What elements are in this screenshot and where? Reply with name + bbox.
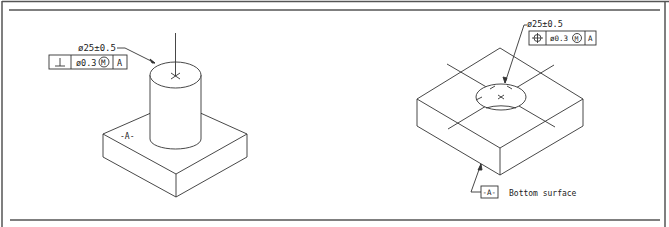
right-fcf-modifier: M — [575, 35, 579, 43]
right-datum-note: Bottom surface — [509, 189, 577, 198]
left-feature-control-frame: ø0.3 M A — [49, 55, 127, 69]
right-dimension-label: ø25±0.5 — [527, 19, 563, 29]
left-fcf-tolerance: ø0.3 — [76, 58, 96, 68]
left-dimension-label: ø25±0.5 — [78, 43, 116, 53]
right-feature-control-frame: ø0.3 M A — [529, 31, 596, 45]
left-fcf-modifier: M — [101, 58, 106, 67]
right-datum-label: -A- — [483, 188, 497, 197]
left-datum-label: -A- — [120, 132, 134, 141]
left-fcf-datum: A — [117, 58, 122, 68]
right-fcf-datum: A — [588, 34, 593, 43]
right-fcf-tolerance: ø0.3 — [550, 34, 568, 43]
drawing-canvas: ø25±0.5 ø0.3 M A -A- — [0, 0, 669, 227]
right-part-drawing — [417, 25, 583, 192]
